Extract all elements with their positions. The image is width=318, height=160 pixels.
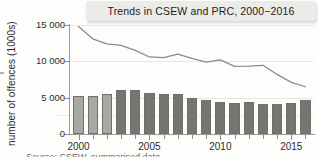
- y-tick-0: [65, 134, 70, 135]
- x-tick-2005: [149, 135, 150, 140]
- chart-title-box: Trends in CSEW and PRC, 2000−2016: [86, 1, 316, 21]
- y-tick-15000: [65, 25, 70, 26]
- chart-title: Trends in CSEW and PRC, 2000−2016: [108, 5, 295, 17]
- x-tick-2008: [192, 135, 193, 139]
- x-tick-2013: [263, 135, 264, 139]
- x-tick-2003: [121, 135, 122, 139]
- y-tick-label-10000: 10 000: [36, 55, 65, 66]
- x-tick-label-2000: 2000: [67, 141, 89, 152]
- line-series-csew: [70, 25, 314, 134]
- x-tick-2009: [206, 135, 207, 139]
- y-tick-label-0: 0: [60, 128, 65, 139]
- x-tick-2016: [305, 135, 306, 139]
- x-tick-label-2005: 2005: [138, 141, 160, 152]
- csew-polyline: [79, 26, 306, 86]
- y-tick-10000: [65, 61, 70, 62]
- x-tick-2002: [107, 135, 108, 139]
- y-axis-title: number of offences (1000s): [6, 6, 17, 146]
- y-tick-5000: [65, 98, 70, 99]
- x-tick-2001: [93, 135, 94, 139]
- y-axis-line: [69, 24, 70, 135]
- x-tick-2010: [220, 135, 221, 140]
- x-tick-2004: [135, 135, 136, 139]
- x-tick-2014: [277, 135, 278, 139]
- y-axis-title-wrapper: number of offences (1000s): [2, 0, 18, 150]
- x-tick-2006: [164, 135, 165, 139]
- y-tick-label-5000: 5 000: [41, 92, 65, 103]
- x-tick-2000: [79, 135, 80, 140]
- x-tick-2012: [249, 135, 250, 139]
- plot-area: [70, 25, 314, 134]
- x-tick-label-2015: 2015: [280, 141, 302, 152]
- y-tick-label-15000: 15 000: [36, 19, 65, 30]
- source-note: Source: CSEW, summarised data: [26, 152, 160, 160]
- x-tick-2007: [178, 135, 179, 139]
- x-tick-2011: [235, 135, 236, 139]
- x-tick-label-2010: 2010: [209, 141, 231, 152]
- chart-figure: number of offences (1000s) 05 00010 0001…: [0, 0, 318, 160]
- x-tick-2015: [291, 135, 292, 140]
